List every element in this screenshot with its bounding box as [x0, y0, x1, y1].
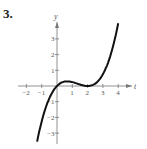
y-axis-label: y — [53, 12, 58, 21]
curve-line — [37, 23, 118, 141]
svg-text:−2: −2 — [47, 114, 55, 122]
svg-text:3: 3 — [51, 35, 55, 43]
axis-ticks: −2−11234−3−2−1123 — [22, 35, 120, 137]
svg-text:−2: −2 — [22, 89, 30, 97]
svg-text:−3: −3 — [47, 130, 55, 138]
svg-text:4: 4 — [116, 89, 120, 97]
svg-text:2: 2 — [86, 89, 90, 97]
t-axis-arrow-icon — [126, 84, 132, 88]
svg-text:1: 1 — [51, 67, 55, 75]
svg-text:2: 2 — [51, 51, 55, 59]
y-axis-arrow-icon — [55, 22, 59, 28]
svg-text:−1: −1 — [38, 89, 46, 97]
cubic-graph: t y −2−11234−3−2−1123 — [0, 0, 147, 149]
svg-text:1: 1 — [70, 89, 74, 97]
svg-text:3: 3 — [101, 89, 105, 97]
t-axis-label: t — [134, 82, 137, 91]
